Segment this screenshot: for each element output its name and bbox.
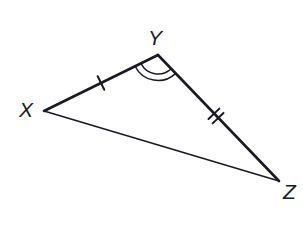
- vertex-label-z: Z: [283, 181, 296, 202]
- vertex-label-y: Y: [148, 27, 162, 48]
- vertex-label-x: X: [19, 99, 33, 120]
- geometry-figure-triangle-xyz: X Y Z: [0, 0, 308, 235]
